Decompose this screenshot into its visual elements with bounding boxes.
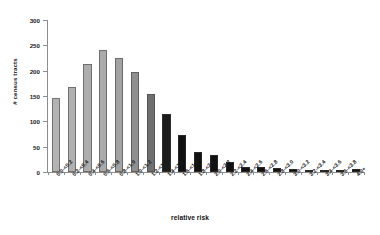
bar (131, 72, 139, 172)
y-tick-label: 250 (14, 42, 40, 49)
bar (99, 50, 107, 172)
y-tick-label: 150 (14, 93, 40, 100)
y-tick-label: 300 (14, 17, 40, 24)
bar (83, 64, 91, 172)
y-tick-label: 50 (14, 144, 40, 151)
y-tick-label: 100 (14, 118, 40, 125)
bar-series (48, 20, 364, 172)
bar (115, 58, 123, 172)
x-axis-tick-labels: 0.0-<0.20.2-<0.40.4-<0.60.6-<0.80.8-<1.0… (48, 173, 364, 218)
y-tick-mark (43, 121, 47, 122)
x-axis-title: relative risk (0, 214, 380, 221)
y-tick-mark (43, 147, 47, 148)
y-tick-mark (43, 172, 47, 173)
bar (52, 98, 60, 172)
y-tick-mark (43, 71, 47, 72)
y-tick-mark (43, 45, 47, 46)
histogram-chart: # census tracts 050100150200250300 0.0-<… (0, 0, 380, 235)
y-tick-label: 0 (14, 169, 40, 176)
y-tick-mark (43, 96, 47, 97)
y-tick-label: 200 (14, 68, 40, 75)
x-tick-mark (364, 172, 365, 175)
y-tick-mark (43, 20, 47, 21)
y-axis-title: # census tracts (11, 37, 18, 127)
